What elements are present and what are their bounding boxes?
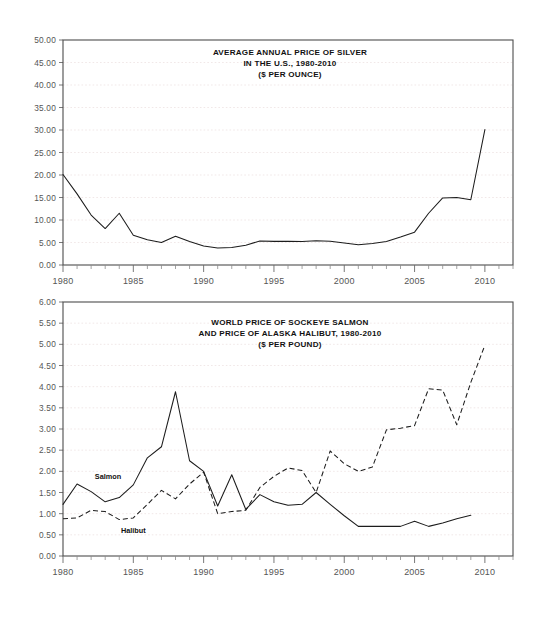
y-axis-label: 15.00 (34, 193, 56, 203)
y-axis-label: 3.00 (39, 424, 56, 434)
y-axis-label: 3.50 (39, 403, 56, 413)
x-axis-label: 2005 (404, 567, 425, 577)
chart-title-line: WORLD PRICE OF SOCKEYE SALMON (211, 318, 368, 327)
y-axis-label: 45.00 (34, 58, 56, 68)
x-axis-label: 2010 (474, 567, 495, 577)
chart-title-line: AND PRICE OF ALASKA HALIBUT, 1980-2010 (199, 329, 382, 338)
y-axis-label: 5.50 (39, 318, 56, 328)
chart-title-line: AVERAGE ANNUAL PRICE OF SILVER (213, 48, 367, 57)
x-axis-label: 2010 (474, 276, 495, 286)
y-axis-label: 2.00 (39, 466, 56, 476)
y-axis-label: 6.00 (39, 297, 56, 307)
series-line-halibut (63, 345, 485, 519)
chart-title-line: ($ PER OUNCE) (258, 70, 322, 79)
y-axis-label: 5.00 (39, 339, 56, 349)
y-axis-label: 0.00 (39, 551, 56, 561)
y-axis-label: 1.50 (39, 488, 56, 498)
x-axis-label: 1980 (53, 276, 74, 286)
y-axis-label: 10.00 (34, 215, 56, 225)
series-label-halibut: Halibut (121, 526, 146, 535)
y-axis-label: 1.00 (39, 509, 56, 519)
y-axis-label: 5.00 (39, 238, 56, 248)
x-axis-label: 2000 (334, 567, 355, 577)
y-axis-label: 4.50 (39, 361, 56, 371)
series-line-salmon (63, 392, 471, 527)
y-axis-label: 50.00 (34, 35, 56, 45)
y-axis-label: 25.00 (34, 148, 56, 158)
silver-price-chart: 0.005.0010.0015.0020.0025.0030.0035.0040… (0, 0, 540, 300)
fish-price-chart: 0.000.501.001.502.002.503.003.504.004.50… (0, 292, 540, 621)
x-axis-label: 2000 (334, 276, 355, 286)
x-axis-label: 1985 (123, 276, 144, 286)
x-axis-label: 1985 (123, 567, 144, 577)
x-axis-label: 1990 (193, 276, 214, 286)
x-axis-label: 1995 (264, 567, 285, 577)
y-axis-label: 40.00 (34, 80, 56, 90)
silver-chart-svg: 0.005.0010.0015.0020.0025.0030.0035.0040… (0, 0, 540, 300)
x-axis-label: 2005 (404, 276, 425, 286)
series-label-salmon: Salmon (95, 472, 121, 481)
y-axis-label: 20.00 (34, 170, 56, 180)
fish-chart-svg: 0.000.501.001.502.002.503.003.504.004.50… (0, 292, 540, 621)
y-axis-label: 4.00 (39, 382, 56, 392)
y-axis-label: 30.00 (34, 125, 56, 135)
series-line-silver-price (63, 130, 485, 248)
x-axis-label: 1995 (264, 276, 285, 286)
y-axis-label: 2.50 (39, 445, 56, 455)
y-axis-label: 0.00 (39, 260, 56, 270)
chart-title-line: IN THE U.S., 1980-2010 (243, 59, 336, 68)
y-axis-label: 0.50 (39, 530, 56, 540)
y-axis-label: 35.00 (34, 103, 56, 113)
x-axis-label: 1990 (193, 567, 214, 577)
chart-title-line: ($ PER POUND) (258, 340, 322, 349)
x-axis-label: 1980 (53, 567, 74, 577)
